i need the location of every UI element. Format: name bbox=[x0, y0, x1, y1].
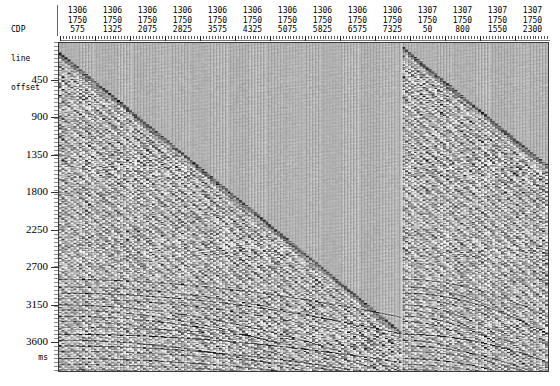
trace-tick bbox=[264, 36, 265, 39]
trace-tick bbox=[60, 36, 61, 41]
trace-tick bbox=[194, 36, 195, 39]
trace-tick bbox=[66, 36, 67, 39]
trace-tick bbox=[369, 36, 370, 39]
trace-tick bbox=[474, 36, 475, 39]
y-axis-tick bbox=[51, 267, 58, 268]
trace-tick bbox=[500, 36, 501, 39]
trace-tick bbox=[188, 36, 189, 39]
trace-tick bbox=[206, 36, 207, 39]
trace-tick bbox=[422, 36, 423, 39]
header-value-offset: 1550 bbox=[478, 25, 518, 35]
trace-tick bbox=[156, 36, 157, 39]
trace-tick bbox=[463, 36, 464, 39]
trace-tick bbox=[483, 36, 484, 39]
header-value-line: 1750 bbox=[268, 16, 308, 26]
trace-tick bbox=[290, 36, 291, 39]
header-value-offset: 2300 bbox=[513, 25, 553, 35]
trace-tick bbox=[547, 36, 548, 39]
y-axis-tick bbox=[51, 305, 58, 306]
header-value-line: 1750 bbox=[128, 16, 168, 26]
trace-tick bbox=[317, 36, 318, 39]
seismic-gather-plot[interactable] bbox=[58, 42, 549, 372]
header-value-line: 1750 bbox=[443, 16, 483, 26]
trace-tick bbox=[288, 36, 289, 39]
trace-tick bbox=[465, 36, 466, 39]
trace-tick bbox=[393, 36, 394, 39]
trace-tick bbox=[63, 36, 64, 39]
header-value-line: 1750 bbox=[513, 16, 553, 26]
trace-tick bbox=[101, 36, 102, 39]
trace-tick bbox=[471, 36, 472, 39]
trace-tick bbox=[381, 36, 382, 39]
trace-tick bbox=[366, 36, 367, 39]
trace-tick bbox=[524, 36, 525, 39]
trace-tick bbox=[215, 36, 216, 39]
header-value-line: 1750 bbox=[233, 16, 273, 26]
header-value-columns: 1306175057513061750132513061750207513061… bbox=[60, 6, 550, 36]
trace-tick bbox=[133, 36, 134, 39]
trace-tick bbox=[390, 36, 391, 39]
header-column: 13061750575 bbox=[58, 6, 98, 35]
y-axis-tick bbox=[51, 230, 58, 231]
trace-tick bbox=[544, 36, 545, 39]
trace-tick bbox=[98, 36, 99, 39]
trace-tick bbox=[413, 36, 414, 39]
trace-tick bbox=[276, 36, 277, 39]
header-value-offset: 2825 bbox=[163, 25, 203, 35]
trace-tick bbox=[430, 36, 431, 39]
trace-tick bbox=[110, 36, 111, 39]
trace-tick bbox=[223, 36, 224, 39]
y-axis-tick-label: 1800 bbox=[2, 186, 48, 197]
header-value-offset: 2075 bbox=[128, 25, 168, 35]
trace-tick bbox=[162, 36, 163, 39]
trace-tick bbox=[174, 36, 175, 39]
trace-tick bbox=[428, 36, 429, 39]
y-axis-tick-label: 3600 bbox=[2, 336, 48, 347]
trace-tick bbox=[533, 36, 534, 39]
trace-tick bbox=[115, 36, 116, 39]
header-value-cdp: 1307 bbox=[443, 6, 483, 16]
trace-tick bbox=[346, 36, 347, 39]
header-column: 130617505075 bbox=[268, 6, 308, 35]
trace-tick bbox=[398, 36, 399, 39]
trace-tick-ruler bbox=[60, 36, 550, 41]
header-column: 130617505825 bbox=[303, 6, 343, 35]
trace-tick bbox=[486, 36, 487, 39]
trace-tick bbox=[95, 36, 96, 41]
trace-tick bbox=[337, 36, 338, 39]
header-value-offset: 575 bbox=[58, 25, 98, 35]
header-value-cdp: 1306 bbox=[373, 6, 413, 16]
trace-tick bbox=[168, 36, 169, 39]
trace-tick bbox=[457, 36, 458, 39]
trace-tick bbox=[261, 36, 262, 39]
trace-tick bbox=[250, 36, 251, 39]
y-axis-tick bbox=[51, 117, 58, 118]
trace-tick bbox=[410, 36, 411, 41]
trace-tick bbox=[130, 36, 131, 41]
trace-tick bbox=[521, 36, 522, 39]
trace-tick bbox=[69, 36, 70, 39]
y-axis-tick-label: 2250 bbox=[2, 224, 48, 235]
seismic-traces-canvas bbox=[59, 43, 548, 371]
trace-tick bbox=[86, 36, 87, 39]
trace-tick bbox=[515, 36, 516, 41]
trace-tick bbox=[197, 36, 198, 39]
trace-tick bbox=[148, 36, 149, 39]
trace-tick bbox=[506, 36, 507, 39]
trace-tick bbox=[355, 36, 356, 39]
trace-tick bbox=[107, 36, 108, 39]
trace-tick bbox=[535, 36, 536, 39]
header-value-offset: 1325 bbox=[93, 25, 133, 35]
trace-tick bbox=[331, 36, 332, 39]
header-value-offset: 4325 bbox=[233, 25, 273, 35]
header-value-cdp: 1306 bbox=[268, 6, 308, 16]
trace-tick bbox=[448, 36, 449, 39]
y-axis-tick bbox=[51, 155, 58, 156]
trace-tick bbox=[247, 36, 248, 39]
header-value-offset: 3575 bbox=[198, 25, 238, 35]
header-column: 130617504325 bbox=[233, 6, 273, 35]
header-column: 130617502075 bbox=[128, 6, 168, 35]
header-column: 130617506575 bbox=[338, 6, 378, 35]
trace-tick bbox=[209, 36, 210, 39]
trace-tick bbox=[92, 36, 93, 39]
